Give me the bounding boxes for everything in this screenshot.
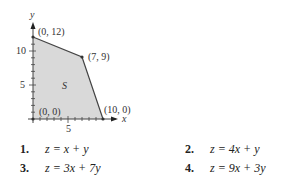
vertex-0-12 (31, 35, 34, 38)
feasible-region-chart: y x 10 5 5 (0, 12) (7, 9) (0, 0) (10, 0)… (0, 0, 150, 135)
region-label: S (62, 80, 67, 91)
exercise-3: 3. z = 3x + 7y (20, 161, 101, 176)
y-tick-label-10: 10 (16, 45, 26, 56)
exercise-equation: z = 9x + 3y (210, 161, 266, 175)
y-tick-label-5: 5 (20, 79, 25, 90)
vertex-7-9 (80, 55, 83, 58)
exercise-number: 1. (20, 142, 42, 157)
vertex-10-0 (101, 117, 104, 120)
vertex-label-0-12: (0, 12) (38, 26, 65, 38)
vertex-label-10-0: (10, 0) (104, 104, 131, 116)
exercise-equation: z = x + y (45, 142, 89, 156)
exercise-4: 4. z = 9x + 3y (185, 161, 266, 176)
exercise-equation: z = 3x + 7y (45, 161, 101, 175)
exercise-number: 2. (185, 142, 207, 157)
exercise-number: 4. (185, 161, 207, 176)
vertex-0-0 (31, 117, 34, 120)
y-axis-arrow-icon (31, 22, 36, 29)
x-tick-label-5: 5 (66, 123, 71, 134)
vertex-label-7-9: (7, 9) (88, 51, 110, 63)
exercise-2: 2. z = 4x + y (185, 142, 260, 157)
exercise-1: 1. z = x + y (20, 142, 89, 157)
exercise-number: 3. (20, 161, 42, 176)
y-axis-label: y (29, 9, 35, 20)
x-axis-arrow-icon (111, 117, 118, 122)
vertex-label-0-0: (0, 0) (39, 106, 61, 118)
exercise-equation: z = 4x + y (210, 142, 260, 156)
